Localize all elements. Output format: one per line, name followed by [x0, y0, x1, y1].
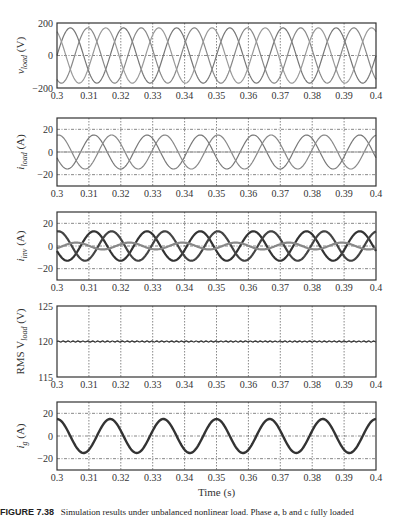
x-tick-label: 0.37 — [272, 188, 290, 199]
y-axis-label: iinv (A) — [14, 230, 29, 261]
x-tick-label: 0.34 — [176, 188, 194, 199]
x-tick-label: 0.36 — [240, 90, 258, 101]
x-tick-label: 0.39 — [335, 379, 353, 390]
y-tick-label: 0 — [48, 50, 53, 61]
x-tick-label: 0.36 — [240, 379, 258, 390]
series-line — [57, 341, 376, 342]
x-tick-label: 0.37 — [272, 282, 290, 293]
y-axis-label: vload (V) — [14, 37, 29, 74]
x-tick-label: 0.38 — [303, 188, 321, 199]
x-tick-label: 0.36 — [240, 472, 258, 483]
x-tick-label: 0.35 — [208, 379, 226, 390]
x-tick-label: 0.33 — [144, 188, 162, 199]
x-tick-label: 0.31 — [80, 379, 98, 390]
x-tick-label: 0.38 — [303, 379, 321, 390]
x-tick-label: 0.35 — [208, 90, 226, 101]
x-tick-label: 0.31 — [80, 90, 98, 101]
x-tick-label: 0.39 — [335, 472, 353, 483]
y-tick-label: 20 — [43, 408, 53, 419]
x-tick-label: 0.38 — [303, 472, 321, 483]
x-tick-label: 0.4 — [370, 90, 383, 101]
x-tick-label: 0.33 — [144, 90, 162, 101]
plot-v-load: 0.30.310.320.330.340.350.360.370.380.390… — [14, 18, 382, 102]
y-tick-label: 200 — [38, 18, 53, 29]
plot-i-load: 0.30.310.320.330.340.350.360.370.380.390… — [14, 118, 382, 199]
caption-label: FIGURE 7.38 — [0, 507, 54, 517]
x-tick-label: 0.33 — [144, 379, 162, 390]
x-tick-label: 0.3 — [51, 188, 64, 199]
x-tick-label: 0.35 — [208, 188, 226, 199]
y-tick-label: 20 — [43, 218, 53, 229]
x-tick-label: 0.39 — [335, 188, 353, 199]
x-tick-label: 0.4 — [370, 379, 383, 390]
x-tick-label: 0.37 — [272, 379, 290, 390]
x-tick-label: 0.38 — [303, 90, 321, 101]
y-tick-label: 120 — [38, 336, 53, 347]
y-tick-label: −20 — [37, 263, 53, 274]
figure-caption: FIGURE 7.38 Simulation results under unb… — [0, 507, 399, 517]
x-tick-label: 0.4 — [370, 472, 383, 483]
y-tick-label: 115 — [38, 372, 53, 383]
x-tick-label: 0.4 — [370, 188, 383, 199]
plot-i-inv: 0.30.310.320.330.340.350.360.370.380.390… — [14, 212, 382, 293]
y-tick-label: 0 — [48, 431, 53, 442]
x-tick-label: 0.34 — [176, 90, 194, 101]
caption-text: Simulation results under unbalanced nonl… — [61, 507, 354, 517]
y-axis-label: iload (A) — [14, 134, 29, 170]
x-tick-label: 0.39 — [335, 282, 353, 293]
x-tick-label: 0.34 — [176, 472, 194, 483]
x-tick-label: 0.31 — [80, 282, 98, 293]
y-tick-label: −20 — [37, 169, 53, 180]
x-tick-label: 0.35 — [208, 282, 226, 293]
x-tick-label: 0.36 — [240, 188, 258, 199]
x-tick-label: 0.32 — [112, 472, 130, 483]
x-tick-label: 0.4 — [370, 282, 383, 293]
y-tick-label: 20 — [43, 124, 53, 135]
figure-canvas: 0.30.310.320.330.340.350.360.370.380.390… — [0, 0, 399, 517]
x-tick-label: 0.31 — [80, 188, 98, 199]
x-tick-label: 0.37 — [272, 90, 290, 101]
x-tick-label: 0.3 — [51, 472, 64, 483]
x-tick-label: 0.33 — [144, 282, 162, 293]
x-tick-label: 0.32 — [112, 379, 130, 390]
y-tick-label: −200 — [32, 83, 53, 94]
y-tick-label: −20 — [37, 453, 53, 464]
y-tick-label: 0 — [48, 241, 53, 252]
x-tick-label: 0.32 — [112, 282, 130, 293]
plot-i-g: 0.30.310.320.330.340.350.360.370.380.390… — [14, 402, 382, 483]
y-tick-label: 125 — [38, 301, 53, 312]
x-tick-label: 0.34 — [176, 282, 194, 293]
x-tick-label: 0.32 — [112, 90, 130, 101]
x-tick-label: 0.31 — [80, 472, 98, 483]
x-tick-label: 0.38 — [303, 282, 321, 293]
y-tick-label: 0 — [48, 147, 53, 158]
x-axis-label: Time (s) — [198, 486, 236, 499]
y-axis-label: RMS Vload (V) — [14, 308, 29, 374]
y-axis-label: ig (A) — [14, 423, 29, 448]
x-tick-label: 0.37 — [272, 472, 290, 483]
x-tick-label: 0.34 — [176, 379, 194, 390]
plot-rms-v-load: 0.30.310.320.330.340.350.360.370.380.390… — [14, 301, 382, 391]
x-tick-label: 0.32 — [112, 188, 130, 199]
x-tick-label: 0.33 — [144, 472, 162, 483]
x-tick-label: 0.35 — [208, 472, 226, 483]
x-tick-label: 0.36 — [240, 282, 258, 293]
x-tick-label: 0.3 — [51, 282, 64, 293]
x-tick-label: 0.39 — [335, 90, 353, 101]
